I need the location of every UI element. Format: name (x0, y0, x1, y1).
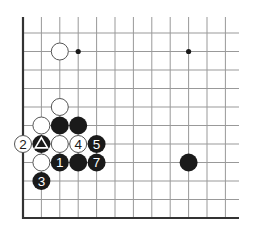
white-stone-icon (51, 43, 68, 60)
black-stone-7: 7 (88, 154, 106, 172)
black-stone-icon (180, 154, 198, 172)
white-stone-2: 2 (15, 136, 32, 153)
star-point (186, 49, 191, 54)
white-stone (33, 154, 50, 171)
move-number-label: 4 (74, 137, 82, 152)
black-stone (69, 117, 87, 135)
white-stone-icon (33, 154, 50, 171)
white-stone-icon (33, 117, 50, 134)
white-stone (51, 136, 68, 153)
black-stone-1: 1 (51, 154, 69, 172)
white-stone-4: 4 (70, 136, 87, 153)
move-number-label: 7 (93, 155, 101, 170)
white-stone-icon (51, 99, 68, 116)
black-stone (51, 117, 69, 135)
black-stone-5: 5 (88, 135, 106, 153)
move-number-label: 2 (19, 137, 27, 152)
black-stone (180, 154, 198, 172)
black-stone (69, 154, 87, 172)
move-number-label: 1 (56, 155, 64, 170)
go-board: 245173 (0, 0, 254, 235)
move-number-label: 5 (93, 137, 101, 152)
move-number-label: 3 (38, 174, 46, 189)
black-stone (32, 135, 50, 153)
black-stone-3: 3 (32, 172, 50, 190)
white-stone (51, 99, 68, 116)
star-point (76, 49, 81, 54)
black-stone-icon (51, 117, 69, 135)
white-stone (51, 43, 68, 60)
white-stone (33, 117, 50, 134)
black-stone-icon (69, 154, 87, 172)
white-stone-icon (51, 136, 68, 153)
black-stone-icon (69, 117, 87, 135)
